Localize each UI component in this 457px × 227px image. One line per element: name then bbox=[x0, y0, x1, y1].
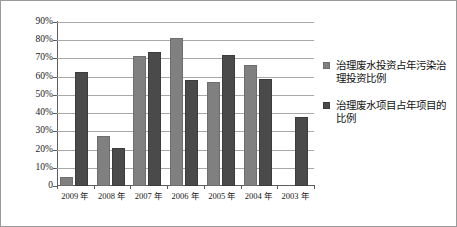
y-axis-tick bbox=[53, 22, 57, 23]
bar bbox=[75, 72, 88, 186]
y-axis-tick bbox=[53, 150, 57, 151]
y-axis-tick bbox=[53, 58, 57, 59]
bar-group bbox=[130, 22, 167, 186]
bar-group bbox=[94, 22, 131, 186]
x-axis-tick bbox=[277, 185, 278, 189]
bar-group bbox=[277, 22, 314, 186]
y-axis-tick-label: 80% bbox=[17, 35, 53, 44]
x-axis-tick-label: 2006 年 bbox=[167, 189, 205, 201]
bar-group bbox=[241, 22, 278, 186]
bar-group bbox=[204, 22, 241, 186]
y-axis-tick-label: 60% bbox=[17, 72, 53, 81]
y-axis-tick bbox=[53, 131, 57, 132]
bar-group bbox=[57, 22, 94, 186]
bar-group bbox=[167, 22, 204, 186]
x-axis-tick bbox=[57, 185, 58, 189]
series-1-swatch-icon bbox=[323, 102, 330, 109]
x-axis-tick bbox=[94, 185, 95, 189]
x-axis-tick bbox=[204, 185, 205, 189]
y-axis-labels: 90%80%70%60%50%40%30%20%10%0 bbox=[11, 1, 53, 227]
x-axis-tick bbox=[130, 185, 131, 189]
y-axis-tick-label: 0 bbox=[17, 181, 53, 190]
bar bbox=[207, 82, 220, 186]
y-axis-tick-label: 10% bbox=[17, 163, 53, 172]
bar bbox=[259, 79, 272, 187]
bar bbox=[295, 117, 308, 186]
legend-label: 治理废水投资占年污染治理投资比例 bbox=[336, 59, 448, 85]
bar bbox=[185, 80, 198, 186]
series-0-swatch-icon bbox=[323, 62, 330, 69]
x-axis-tick-label: 2009 年 bbox=[56, 189, 94, 201]
chart-figure: 90%80%70%60%50%40%30%20%10%0 2009 年2008 … bbox=[0, 0, 457, 227]
chart-legend: 治理废水投资占年污染治理投资比例 治理废水项目占年项目的比例 bbox=[323, 59, 455, 139]
y-axis-tick-label: 20% bbox=[17, 145, 53, 154]
legend-label: 治理废水项目占年项目的比例 bbox=[336, 99, 448, 125]
y-axis-tick bbox=[53, 40, 57, 41]
bar bbox=[148, 52, 161, 186]
bar bbox=[244, 65, 257, 186]
y-axis-tick-label: 40% bbox=[17, 108, 53, 117]
x-axis-tick-label: 2007 年 bbox=[130, 189, 168, 201]
x-axis-tick bbox=[241, 185, 242, 189]
y-axis-tick-label: 30% bbox=[17, 126, 53, 135]
x-axis-tick-label: 2008 年 bbox=[93, 189, 131, 201]
bar bbox=[170, 38, 183, 186]
plot-area bbox=[57, 22, 314, 186]
y-axis-tick bbox=[53, 77, 57, 78]
bar bbox=[60, 177, 73, 186]
x-axis-tick bbox=[167, 185, 168, 189]
x-axis-tick-label: 2004 年 bbox=[240, 189, 278, 201]
y-axis-tick-label: 70% bbox=[17, 53, 53, 62]
bar bbox=[133, 56, 146, 186]
y-axis-tick-label: 90% bbox=[17, 17, 53, 26]
bar bbox=[222, 55, 235, 186]
bar bbox=[97, 136, 110, 186]
y-axis-tick bbox=[53, 168, 57, 169]
y-axis-tick bbox=[53, 113, 57, 114]
x-axis-tick-label: 2003 年 bbox=[277, 189, 315, 201]
y-axis-tick bbox=[53, 95, 57, 96]
legend-item: 治理废水项目占年项目的比例 bbox=[323, 99, 455, 125]
y-axis-tick-label: 50% bbox=[17, 90, 53, 99]
x-axis-tick bbox=[314, 185, 315, 189]
x-axis-tick-label: 2005 年 bbox=[203, 189, 241, 201]
bar bbox=[112, 148, 125, 186]
legend-item: 治理废水投资占年污染治理投资比例 bbox=[323, 59, 455, 85]
x-axis-labels: 2009 年2008 年2007 年2006 年2005 年2004 年2003… bbox=[57, 189, 315, 205]
